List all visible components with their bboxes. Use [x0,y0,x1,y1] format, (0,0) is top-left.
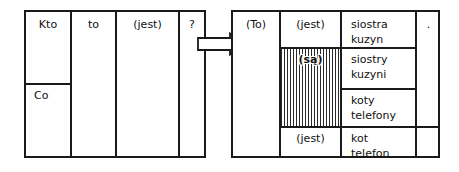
left-table-column-rule-2 [115,12,117,156]
cell-copula-singular-top: (jest) [281,14,340,33]
cell-predicate-2: siostry kuzyni [342,49,415,82]
cell-co: Co [26,85,70,104]
cell-predicate-1: siostra kuzyn [342,14,415,47]
cell-kto: Kto [26,14,70,33]
cell-question-mark: ? [180,14,204,33]
cell-to-subject: (To) [233,14,279,33]
cell-jest: (jest) [117,14,178,33]
cell-copula-singular-bottom: (jest) [281,128,340,147]
cell-to: to [72,14,115,33]
question-pattern-table: Kto Co to (jest) ? [24,10,206,158]
cell-predicate-4: kot telefon [342,128,415,161]
cell-copula-plural-label: (są) [281,53,340,66]
cell-predicate-3: koty telefony [342,90,415,123]
diagram-canvas: Kto Co to (jest) ? (są) (To) (jest) [0,0,459,172]
right-table-column-rule-3 [415,12,417,156]
left-table-column-rule-3 [178,12,180,156]
answer-pattern-table: (są) (To) (jest) (jest) siostra kuzyn si… [231,10,440,158]
cell-copula-plural-hatched: (są) [281,49,340,126]
cell-period: . [417,14,440,33]
right-table-period-rule [415,126,440,128]
